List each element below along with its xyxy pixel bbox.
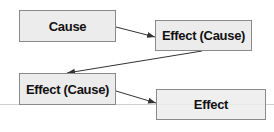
arrow-effect-cause-2-to-effect — [116, 91, 156, 103]
node-effect: Effect — [156, 89, 266, 120]
node-label: Effect (Cause) — [162, 28, 245, 43]
node-effect-cause-1: Effect (Cause) — [155, 20, 252, 51]
arrow-effect-cause-1-to-effect-cause-2 — [67, 51, 202, 73]
node-label: Effect — [194, 97, 228, 112]
node-label: Cause — [49, 19, 87, 34]
node-effect-cause-2: Effect (Cause) — [19, 73, 116, 105]
node-cause: Cause — [19, 10, 116, 42]
arrow-cause-to-effect-cause-1 — [116, 27, 155, 37]
node-label: Effect (Cause) — [26, 82, 109, 97]
